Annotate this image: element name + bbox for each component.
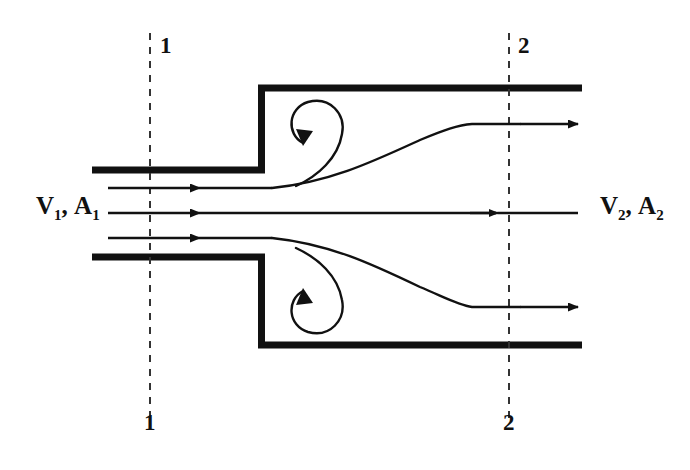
outlet-velocity-symbol: V bbox=[600, 192, 618, 219]
section-marker-2-bottom: 2 bbox=[503, 410, 515, 436]
section-marker-1-bottom: 1 bbox=[144, 410, 156, 436]
outlet-label-separator: , bbox=[626, 192, 632, 219]
inlet-area-subscript: 1 bbox=[92, 207, 100, 223]
inlet-velocity-subscript: 1 bbox=[54, 207, 62, 223]
outlet-streamlines bbox=[470, 124, 578, 307]
upper-recirculation-vortex bbox=[292, 101, 343, 186]
inlet-area-symbol: A bbox=[74, 192, 92, 219]
inlet-label-separator: , bbox=[62, 192, 68, 219]
lower-curved-streamline bbox=[272, 238, 520, 307]
inlet-velocity-symbol: V bbox=[36, 192, 54, 219]
section-marker-1-top: 1 bbox=[160, 33, 172, 59]
outlet-area-subscript: 2 bbox=[656, 207, 664, 223]
lower-recirculation-vortex bbox=[292, 248, 343, 333]
sudden-expansion-diagram: V1, A1 V2, A2 1 2 1 2 bbox=[0, 0, 690, 470]
outlet-flow-label: V2, A2 bbox=[600, 192, 664, 220]
outlet-velocity-subscript: 2 bbox=[618, 207, 626, 223]
lower-vortex-arrowhead bbox=[296, 288, 313, 305]
shear-layer-streamlines bbox=[272, 124, 520, 307]
recirculation-vortices bbox=[292, 101, 343, 333]
upper-pipe-wall bbox=[92, 88, 582, 170]
outlet-area-symbol: A bbox=[638, 192, 656, 219]
section-marker-2-top: 2 bbox=[518, 33, 530, 59]
upper-vortex-arrowhead bbox=[296, 129, 313, 146]
inlet-streamlines bbox=[108, 188, 496, 238]
inlet-flow-label: V1, A1 bbox=[36, 192, 100, 220]
diagram-canvas bbox=[0, 0, 690, 470]
